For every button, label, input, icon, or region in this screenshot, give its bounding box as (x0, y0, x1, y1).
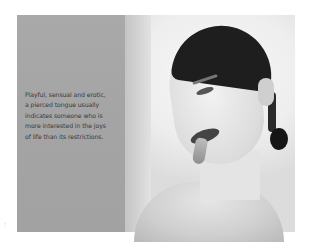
caption-line: more interested in the joys (25, 121, 125, 131)
caption-line: of life than its restrictions. (25, 132, 125, 142)
caption-line: indicates someone who is (25, 111, 125, 121)
margin-mark: : (4, 220, 8, 228)
caption-line: Playful, sensual and erotic, (25, 90, 125, 100)
portrait-ear (258, 78, 274, 106)
caption-line: a pierced tongue usually (25, 100, 125, 110)
photo-shadow (125, 15, 151, 232)
book-page: Playful, sensual and erotic, a pierced t… (0, 0, 312, 252)
caption-panel: Playful, sensual and erotic, a pierced t… (17, 15, 125, 232)
photo-caption: Playful, sensual and erotic, a pierced t… (25, 90, 125, 142)
portrait-hair-bun (270, 128, 288, 150)
